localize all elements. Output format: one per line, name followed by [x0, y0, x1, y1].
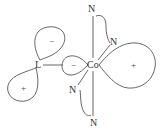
metal-label: Co — [87, 59, 99, 70]
n-bottom-label: N — [90, 117, 97, 128]
metal-right-lobe — [99, 43, 155, 88]
ligand-label: L — [35, 59, 41, 70]
ligand-upper-lobe-sign: − — [49, 36, 54, 46]
chelate-ring-bottom — [80, 90, 91, 116]
n-upper-right-label: N — [110, 36, 117, 47]
n-lower-left-label: N — [69, 84, 76, 95]
chelate-ring-top — [96, 15, 110, 43]
ligand-lower-lobe-sign: + — [21, 83, 26, 93]
n-top-label: N — [88, 3, 95, 14]
metal-left-lobe-sign: − — [71, 60, 76, 70]
co-n-upper-right-bond — [98, 45, 110, 60]
orbital-overlap-diagram: − + L − + Co N N N N — [0, 0, 163, 132]
metal-right-lobe-sign: + — [131, 60, 136, 70]
